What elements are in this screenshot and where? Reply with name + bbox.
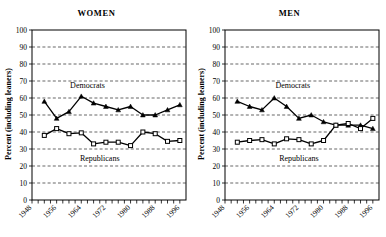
- x-tick-label-1996: 1996: [164, 203, 181, 220]
- x-tick-label-1972: 1972: [90, 203, 107, 220]
- y-tick-label-100: 100: [209, 26, 221, 35]
- x-tick-label-group-1972: 1972: [283, 203, 300, 220]
- y-tick-label-20: 20: [213, 162, 221, 171]
- x-tick-label-1964: 1964: [259, 203, 276, 220]
- y-tick-label-100: 100: [16, 26, 28, 35]
- data-point-republicans-1980: [129, 144, 133, 148]
- figure-root: WOMEN Percent (including leaners) 010203…: [0, 0, 386, 237]
- x-tick-label-group-1996: 1996: [357, 203, 374, 220]
- data-point-republicans-1996: [371, 116, 375, 120]
- y-tick-label-60: 60: [20, 94, 28, 103]
- series-annotation-republicans: Republicans: [80, 154, 120, 163]
- x-tick-label-1948: 1948: [209, 203, 226, 220]
- data-point-republicans-1960: [260, 138, 264, 142]
- y-tick-label-80: 80: [20, 60, 28, 69]
- chart-panel-men: MEN Percent (including leaners) 01020304…: [193, 0, 386, 237]
- x-tick-label-group-1980: 1980: [308, 203, 325, 220]
- y-tick-label-30: 30: [213, 145, 221, 154]
- y-tick-label-20: 20: [20, 162, 28, 171]
- data-point-republicans-1988: [153, 132, 157, 136]
- series-line-republicans: [237, 118, 373, 143]
- data-point-republicans-1972: [104, 140, 108, 144]
- x-tick-label-1956: 1956: [234, 203, 251, 220]
- x-tick-label-1988: 1988: [333, 203, 350, 220]
- y-tick-label-10: 10: [20, 179, 28, 188]
- x-tick-label-1948: 1948: [16, 203, 33, 220]
- y-tick-label-70: 70: [213, 77, 221, 86]
- x-tick-label-1956: 1956: [41, 203, 58, 220]
- x-tick-label-group-1980: 1980: [115, 203, 132, 220]
- y-tick-label-50: 50: [20, 111, 28, 120]
- series-line-republicans: [44, 129, 180, 146]
- x-tick-label-group-1996: 1996: [164, 203, 181, 220]
- y-tick-label-80: 80: [213, 60, 221, 69]
- x-tick-label-1972: 1972: [283, 203, 300, 220]
- data-point-republicans-1956: [248, 139, 252, 143]
- data-point-republicans-1992: [359, 127, 363, 131]
- y-tick-label-40: 40: [213, 128, 221, 137]
- x-tick-label-1980: 1980: [308, 203, 325, 220]
- data-point-republicans-1976: [309, 142, 313, 146]
- data-point-democrats-1952: [42, 99, 47, 103]
- x-tick-label-group-1948: 1948: [209, 203, 226, 220]
- y-tick-label-10: 10: [213, 179, 221, 188]
- series-annotation-republicans: Republicans: [279, 154, 319, 163]
- data-point-republicans-1964: [79, 131, 83, 135]
- y-tick-label-90: 90: [213, 43, 221, 52]
- data-point-republicans-1952: [42, 133, 46, 137]
- data-point-democrats-1952: [235, 99, 240, 103]
- data-point-democrats-1980: [128, 104, 133, 108]
- x-tick-label-1996: 1996: [357, 203, 374, 220]
- x-tick-label-group-1972: 1972: [90, 203, 107, 220]
- x-tick-label-group-1964: 1964: [66, 203, 83, 220]
- y-tick-label-70: 70: [20, 77, 28, 86]
- data-point-republicans-1972: [297, 138, 301, 142]
- data-point-republicans-1960: [67, 132, 71, 136]
- x-tick-label-group-1956: 1956: [234, 203, 251, 220]
- x-tick-label-group-1988: 1988: [333, 203, 350, 220]
- data-point-republicans-1984: [334, 123, 338, 127]
- x-tick-label-group-1964: 1964: [259, 203, 276, 220]
- series-annotation-democrats: Democrats: [275, 81, 310, 90]
- data-point-republicans-1984: [141, 130, 145, 134]
- series-annotation-democrats: Democrats: [70, 81, 105, 90]
- y-tick-label-50: 50: [213, 111, 221, 120]
- plot-area-women: 0102030405060708090100194819561964197219…: [0, 0, 193, 237]
- x-tick-label-1964: 1964: [66, 203, 83, 220]
- data-point-republicans-1956: [55, 127, 59, 131]
- data-point-republicans-1980: [322, 139, 326, 143]
- data-point-republicans-1988: [346, 122, 350, 126]
- data-point-republicans-1968: [92, 142, 96, 146]
- chart-panel-women: WOMEN Percent (including leaners) 010203…: [0, 0, 193, 237]
- data-point-republicans-1952: [235, 140, 239, 144]
- data-point-republicans-1996: [178, 139, 182, 143]
- data-point-democrats-1996: [177, 102, 182, 106]
- y-tick-label-40: 40: [20, 128, 28, 137]
- data-point-republicans-1964: [272, 142, 276, 146]
- y-tick-label-60: 60: [213, 94, 221, 103]
- data-point-republicans-1992: [166, 139, 170, 143]
- plot-area-men: 0102030405060708090100194819561964197219…: [193, 0, 386, 237]
- x-tick-label-group-1988: 1988: [140, 203, 157, 220]
- x-tick-label-group-1948: 1948: [16, 203, 33, 220]
- data-point-republicans-1968: [285, 137, 289, 141]
- data-point-republicans-1976: [116, 140, 120, 144]
- data-point-democrats-1964: [79, 94, 84, 98]
- x-tick-label-1988: 1988: [140, 203, 157, 220]
- y-tick-label-30: 30: [20, 145, 28, 154]
- series-line-democrats: [237, 98, 373, 129]
- x-tick-label-group-1956: 1956: [41, 203, 58, 220]
- x-tick-label-1980: 1980: [115, 203, 132, 220]
- y-tick-label-90: 90: [20, 43, 28, 52]
